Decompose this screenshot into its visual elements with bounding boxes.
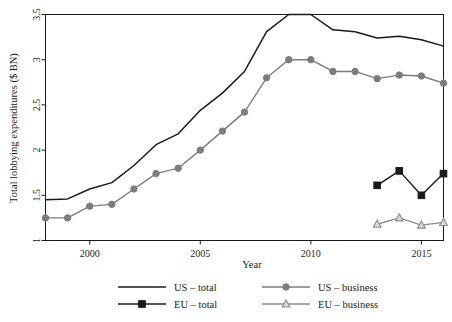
data-point (418, 192, 425, 199)
data-point (374, 182, 381, 189)
data-point (42, 215, 48, 221)
legend-item-us-business[interactable]: US – business (262, 282, 378, 293)
y-tick-label: 3 (31, 57, 42, 62)
data-point (87, 203, 93, 209)
series-layer (42, 15, 447, 229)
y-axis-title: Total lobbying expenditures ($ BN) (8, 53, 20, 203)
data-point (440, 218, 448, 225)
data-point (263, 75, 269, 81)
data-point (330, 68, 336, 74)
data-point (64, 215, 70, 221)
x-tick-label: 2000 (80, 248, 100, 259)
data-point (197, 147, 203, 153)
series-ustotal (46, 15, 444, 200)
chart-container: Total lobbying expenditures ($ BN) Year … (0, 0, 452, 322)
y-tick-label: 1.5 (31, 189, 42, 202)
legend-item-us-total[interactable]: US – total (118, 282, 217, 293)
legend-label-us-business: US – business (318, 282, 378, 293)
x-tick-label: 2010 (301, 248, 321, 259)
y-axis-ticks: 11.522.533.5 (31, 8, 46, 243)
data-point (241, 109, 247, 115)
legend-label-eu-business: EU – business (318, 299, 378, 310)
x-tick-label: 2015 (411, 248, 431, 259)
line-chart: Total lobbying expenditures ($ BN) Year … (0, 0, 452, 322)
legend-marker-us-business (283, 284, 289, 290)
data-point (395, 214, 403, 221)
data-point (131, 186, 137, 192)
series-usbusiness (42, 57, 446, 222)
series-line (377, 171, 443, 195)
legend-item-eu-business[interactable]: EU – business (262, 299, 378, 310)
chart-legend: US – totalEU – totalUS – businessEU – bu… (118, 282, 378, 310)
data-point (352, 68, 358, 74)
plot-frame (46, 15, 444, 241)
y-tick-label: 2.5 (31, 99, 42, 112)
data-point (440, 80, 446, 86)
series-eutotal (374, 168, 447, 199)
data-point (374, 75, 380, 81)
data-point (175, 165, 181, 171)
legend-label-us-total: US – total (174, 282, 217, 293)
x-axis-ticks: 2000200520102015 (80, 241, 432, 259)
x-tick-label: 2005 (190, 248, 210, 259)
data-point (440, 170, 447, 177)
legend-item-eu-total[interactable]: EU – total (118, 299, 217, 310)
legend-label-eu-total: EU – total (174, 299, 217, 310)
data-point (308, 57, 314, 63)
legend-marker-eu-total (139, 301, 146, 308)
data-point (109, 201, 115, 207)
data-point (153, 170, 159, 176)
data-point (396, 72, 402, 78)
series-line (46, 60, 444, 218)
y-tick-label: 2 (31, 148, 42, 153)
y-tick-label: 3.5 (31, 8, 42, 21)
series-eubusiness (373, 214, 447, 228)
data-point (219, 128, 225, 134)
series-line (377, 218, 443, 225)
x-axis-title: Year (242, 259, 262, 270)
data-point (286, 57, 292, 63)
y-tick-label: 1 (31, 238, 42, 243)
data-point (418, 73, 424, 79)
series-line (46, 15, 444, 200)
data-point (396, 168, 403, 175)
